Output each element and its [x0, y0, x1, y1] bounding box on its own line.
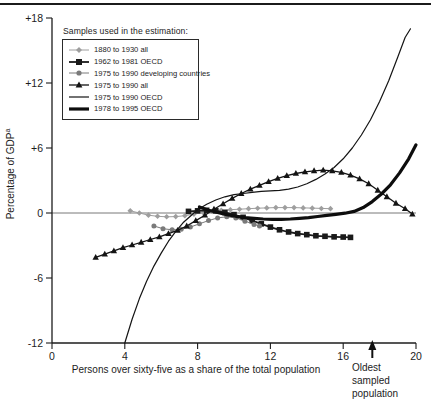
- x-tick-label: 4: [122, 350, 128, 362]
- legend-item-1962-to-1981-oecd: 1962 to 1981 OECD: [68, 56, 194, 68]
- x-tick-label: 16: [337, 350, 349, 362]
- y-tick-label: +12: [25, 77, 43, 89]
- triangle-legend-icon: [68, 80, 90, 90]
- legend-item-label: 1962 to 1981 OECD: [94, 57, 162, 66]
- legend-item-label: 1978 to 1995 OECD: [94, 104, 162, 113]
- y-tick-label: +6: [31, 142, 43, 154]
- line-legend-icon: [68, 104, 90, 114]
- x-axis-title: Persons over sixty-five as a share of th…: [72, 364, 320, 375]
- oldest-population-arrowhead: [368, 340, 376, 350]
- legend-item-label: 1975 to 1990 OECD: [94, 93, 162, 102]
- diamond-legend-icon: [68, 45, 90, 55]
- legend-item-label: 1975 to 1990 all: [94, 81, 148, 90]
- y-tick-label: -6: [34, 272, 43, 284]
- legend-item-label: 1975 to 1990 developing countries: [94, 69, 210, 78]
- oldest-population-label: Oldestsampledpopulation: [352, 362, 398, 399]
- x-tick-label: 8: [195, 350, 201, 362]
- y-axis-title: Percentage of GDPa: [4, 129, 16, 220]
- y-tick-label: 0: [37, 207, 43, 219]
- y-tick-label: -12: [28, 337, 43, 349]
- circle-legend-icon: [68, 68, 90, 78]
- square-legend-icon: [68, 57, 90, 67]
- x-tick-label: 12: [265, 350, 277, 362]
- figure-page: +18+12+60-6-12048121620Persons over sixt…: [0, 0, 431, 417]
- chart-legend: Samples used in the estimation: 1880 to …: [62, 26, 199, 120]
- legend-item-1975-to-1990-all: 1975 to 1990 all: [68, 79, 194, 91]
- y-tick-label: +18: [25, 12, 43, 24]
- legend-item-1978-to-1995-oecd: 1978 to 1995 OECD: [68, 103, 194, 115]
- legend-item-1975-to-1990-oecd: 1975 to 1990 OECD: [68, 91, 194, 103]
- legend-item-1975-to-1990-developing-countries: 1975 to 1990 developing countries: [68, 68, 194, 80]
- line-legend-icon: [68, 92, 90, 102]
- legend-box: 1880 to 1930 all1962 to 1981 OECD1975 to…: [62, 39, 199, 120]
- legend-item-1880-to-1930-all: 1880 to 1930 all: [68, 44, 194, 56]
- legend-item-label: 1880 to 1930 all: [94, 45, 148, 54]
- x-tick-label: 20: [410, 350, 422, 362]
- legend-title: Samples used in the estimation:: [63, 26, 199, 36]
- x-tick-label: 0: [49, 350, 55, 362]
